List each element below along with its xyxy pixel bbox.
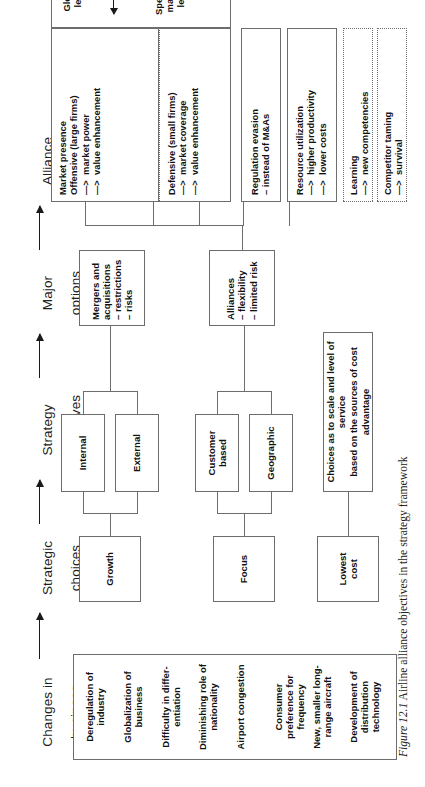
objective-line: —> value enhancement (188, 87, 199, 194)
change-item: Diminishing role of nationality (197, 663, 235, 749)
connector (242, 226, 243, 250)
changes-in-business-box: Deregulation of industry Globalization o… (73, 654, 397, 760)
level-label-global: Global level (61, 0, 83, 26)
header-line-1: Changes in (40, 677, 55, 746)
level-double-arrow-icon (113, 0, 114, 14)
alliance-objective-resource-utilization[interactable]: Resource utilization —> higher productiv… (287, 28, 337, 202)
connector (110, 514, 111, 536)
connector (289, 202, 290, 226)
change-item: Globalization of business (121, 671, 159, 742)
objective-line: —> higher productivity (305, 90, 316, 195)
connector (83, 513, 138, 514)
connector (243, 202, 244, 226)
objective-line: —> value enhancement (91, 87, 102, 194)
box-label: Customer based (205, 430, 227, 475)
change-item: Difficulty in differ- entiation (159, 666, 197, 747)
header-line-1: Major (40, 275, 55, 309)
flow-arrow-4 (39, 206, 40, 250)
connector (348, 492, 349, 536)
header-line-1: Strategic (40, 540, 55, 594)
box-title: Mergers and acquisitions (89, 262, 111, 319)
connector (217, 392, 218, 414)
connector (217, 513, 272, 514)
column-header-major-options: Major options (27, 254, 83, 332)
strategy-alternative-internal[interactable]: Internal (61, 414, 105, 492)
connector (83, 392, 84, 414)
connector (85, 202, 86, 226)
figure-caption-text: Airline alliance objectives in the strat… (397, 456, 410, 700)
alliance-objective-market-presence[interactable]: Market presence Offensive (large firms) … (51, 28, 159, 202)
level-label-specific-market: Specific market level (153, 0, 187, 26)
change-item: Consumer preference for frequency (272, 675, 310, 739)
connector (199, 202, 200, 226)
objective-line: – instead of M&As (260, 113, 271, 194)
column-header-strategic-choices: Strategic choices (27, 528, 83, 608)
alliance-objective-learning[interactable]: Learning —> new competencies (343, 28, 373, 202)
connector (244, 326, 245, 392)
box-label: Choices as to scale and level of service… (324, 333, 370, 491)
box-label: Growth (104, 552, 115, 586)
strategic-choice-lowest-cost[interactable]: Lowest cost (317, 536, 379, 602)
flow-arrow-2 (39, 480, 40, 524)
box-label: Internal (77, 435, 88, 470)
box-bullet: – limited risk (247, 261, 258, 320)
connector-trunk (85, 225, 243, 226)
strategy-alternative-customer-based[interactable]: Customer based (195, 414, 239, 492)
strategy-alternative-cost-choices[interactable]: Choices as to scale and level of service… (323, 332, 373, 492)
box-label: Geographic (265, 426, 276, 479)
alliance-objective-regulation-evasion[interactable]: Regulation evasion – instead of M&As (241, 28, 281, 202)
connector (271, 392, 272, 414)
objective-line: —> lower costs (316, 123, 327, 195)
connector (244, 514, 245, 536)
strategy-alternative-geographic[interactable]: Geographic (249, 414, 293, 492)
change-item: Deregulation of industry (84, 672, 122, 742)
objective-title: Resource utilization (294, 105, 305, 194)
header-line-1: Strategy (40, 404, 55, 455)
connector (153, 202, 154, 226)
connector (271, 492, 272, 514)
figure-number: Figure 12.1 (397, 703, 410, 757)
box-label: Lowest cost (336, 552, 358, 585)
objective-title: Learning (348, 155, 359, 195)
objective-title: Market presence (57, 121, 68, 195)
change-item: New, smaller long- range aircraft (310, 665, 348, 749)
major-option-alliances[interactable]: Alliances – flexibility – limited risk (209, 250, 275, 326)
box-title: Alliances (225, 277, 236, 319)
objective-title: Competitor taming (382, 111, 393, 194)
connector (83, 492, 84, 514)
strategic-choice-growth[interactable]: Growth (79, 536, 141, 602)
box-label: Focus (238, 554, 249, 582)
strategy-alternative-external[interactable]: External (115, 414, 159, 492)
change-item: Development of distribution technology (348, 671, 386, 742)
objective-subtitle: Defensive (small firms) (166, 92, 177, 195)
box-bullet: – restrictions (112, 259, 123, 319)
flow-arrow-1 (39, 613, 40, 659)
connector (137, 392, 138, 414)
box-label: External (131, 434, 142, 472)
flow-arrow-3 (39, 334, 40, 378)
objective-line: —> market power (79, 113, 90, 194)
major-option-mergers-and-acquisitions[interactable]: Mergers and acquisitions – restrictions … (79, 250, 145, 326)
figure-caption: Figure 12.1 Airline alliance objectives … (397, 57, 410, 757)
objective-subtitle: Offensive (large firms) (68, 95, 79, 195)
objective-line: —> new competencies (359, 91, 370, 194)
change-item: Airport congestion (235, 664, 273, 749)
figure-canvas: Changes in business Strategic choices St… (17, 14, 409, 774)
connector (110, 326, 111, 392)
objective-line: —> market coverage (177, 100, 188, 195)
objective-title: Regulation evasion (249, 109, 260, 195)
strategic-choice-focus[interactable]: Focus (213, 536, 275, 602)
box-bullet: – risks (123, 289, 134, 319)
alliance-objective-market-presence-defensive[interactable]: Defensive (small firms) —> market covera… (159, 28, 231, 202)
box-bullet: – flexibility (236, 270, 247, 320)
connector (137, 492, 138, 514)
connector (217, 492, 218, 514)
